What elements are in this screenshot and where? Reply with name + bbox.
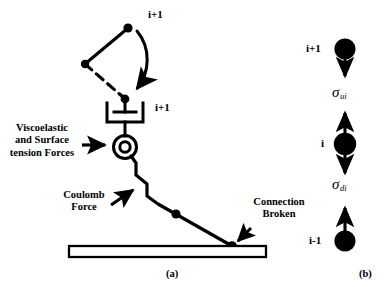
node-i-plus-1-dot — [334, 38, 355, 59]
panel-b-nodes — [334, 38, 356, 251]
bead-top-node — [123, 23, 132, 32]
label-connection-broken: Connection Broken — [240, 196, 318, 221]
sigma-di-label: σdi — [332, 176, 347, 193]
dashpot-damper-icon — [107, 99, 143, 136]
label-node-i: i — [321, 137, 324, 150]
zigzag-chain-icon — [131, 156, 232, 246]
label-pivot-node: i+1 — [155, 101, 170, 114]
caption-panel-b: (b) — [359, 268, 372, 280]
label-coulomb-force: Coulomb Force — [56, 189, 112, 214]
node-i-minus-1-dot — [334, 230, 355, 251]
coulomb-pointer-arrow-icon — [111, 190, 133, 205]
bead-chain-midpoint — [171, 209, 180, 218]
annulus-joint-icon — [114, 136, 137, 159]
sigma-ui-subscript: ui — [339, 91, 346, 101]
curved-rotation-arrow-icon — [137, 31, 147, 88]
label-viscoelastic-surface-tension: Viscoelastic and Surface tension Forces — [2, 122, 82, 159]
sigma-di-subscript: di — [339, 183, 346, 193]
label-node-i-minus-1: i-1 — [309, 234, 321, 247]
node-i-dot — [334, 133, 356, 155]
caption-panel-a: (a) — [166, 268, 178, 280]
label-top-node: i+1 — [148, 8, 163, 21]
substrate-bar-icon — [69, 246, 266, 257]
figure-root: i+1 i+1 Viscoelastic and Surface tension… — [0, 0, 388, 287]
link-dashed-lower — [85, 64, 124, 98]
pivot-link-assembly — [81, 23, 133, 103]
link-solid-upper — [85, 29, 128, 65]
connection-broken-pointer-arrow-icon — [238, 228, 251, 241]
label-node-i-plus-1: i+1 — [306, 42, 321, 55]
bead-hinge-node — [81, 60, 89, 68]
sigma-ui-label: σui — [332, 84, 347, 101]
